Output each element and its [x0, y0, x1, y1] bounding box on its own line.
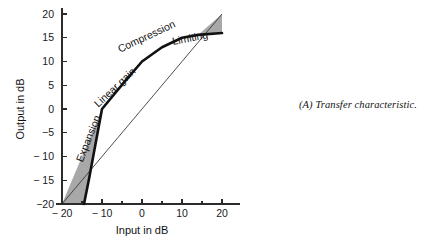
curve-label-compression: Compression: [116, 17, 177, 54]
y-axis-title: Output in dB: [14, 78, 26, 139]
y-axis-ticks: [62, 14, 67, 204]
x-tick-label: 0: [139, 207, 145, 219]
x-axis-title: Input in dB: [116, 224, 169, 236]
x-tick-label: 10: [176, 207, 188, 219]
y-tick-label: 5: [48, 79, 54, 91]
y-tick-label: 0: [48, 103, 54, 115]
x-axis-tick-labels: − 20− 1001020: [52, 207, 228, 219]
y-tick-label: − 15: [33, 174, 54, 186]
y-tick-label: − 10: [33, 150, 54, 162]
y-tick-label: 15: [42, 31, 54, 43]
x-tick-label: 20: [216, 207, 228, 219]
transfer-characteristic-chart: − 20− 1001020 −20− 15− 10−505101520 Inpu…: [0, 0, 447, 241]
transfer-characteristic-figure: − 20− 1001020 −20− 15− 10−505101520 Inpu…: [0, 0, 447, 241]
y-tick-label: −5: [42, 126, 54, 138]
curve-label-linear-gain: Linear gain: [91, 65, 137, 109]
y-tick-label: 10: [42, 55, 54, 67]
y-axis-tick-labels: −20− 15− 10−505101520: [33, 8, 54, 210]
x-tick-label: − 20: [52, 207, 73, 219]
x-tick-label: − 10: [92, 207, 113, 219]
y-tick-label: 20: [42, 8, 54, 20]
curve-label-limiting: Limiting: [171, 28, 209, 47]
y-tick-label: −20: [36, 198, 54, 210]
figure-caption: (A) Transfer characteristic.: [299, 99, 439, 110]
transfer-characteristic-curve: [84, 33, 222, 204]
